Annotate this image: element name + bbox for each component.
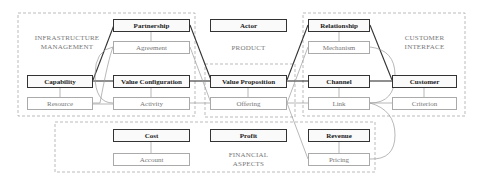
node-revenue: Revenue bbox=[308, 129, 370, 142]
node-pricing: Pricing bbox=[308, 153, 370, 166]
node-partnership: Partnership bbox=[113, 19, 190, 32]
financial-label-line2: ASPECTS bbox=[210, 160, 287, 169]
customer-label-line2: INTERFACE bbox=[392, 43, 457, 52]
financial-aspects-label: FINANCIAL ASPECTS bbox=[210, 151, 287, 169]
node-mechanism: Mechanism bbox=[308, 41, 370, 54]
node-value-proposition: Value Proposition bbox=[210, 75, 287, 88]
node-channel: Channel bbox=[308, 75, 370, 88]
node-customer: Customer bbox=[392, 75, 457, 88]
customer-interface-label: CUSTOMER INTERFACE bbox=[392, 34, 457, 52]
edge-resource-agreement bbox=[93, 47, 113, 103]
node-cost: Cost bbox=[113, 129, 190, 142]
node-relationship: Relationship bbox=[308, 19, 370, 32]
node-actor: Actor bbox=[210, 19, 287, 32]
node-capability: Capability bbox=[27, 75, 93, 88]
node-value-configuration: Value Configuration bbox=[113, 75, 190, 88]
edge-agreement-offering bbox=[190, 47, 211, 103]
edge-mechanism-offering bbox=[287, 47, 308, 103]
edge-valueprop-relationship bbox=[287, 25, 308, 80]
node-criterion: Criterion bbox=[392, 97, 457, 110]
customer-label-line1: CUSTOMER bbox=[392, 34, 457, 43]
edge-relationship-customer bbox=[370, 25, 392, 80]
node-offering: Offering bbox=[210, 97, 287, 110]
node-account: Account bbox=[113, 153, 190, 166]
node-agreement: Agreement bbox=[113, 41, 190, 54]
node-activity: Activity bbox=[113, 97, 190, 110]
product-label: PRODUCT bbox=[210, 44, 287, 53]
edge-link-pricing-curve bbox=[370, 103, 395, 159]
node-profit: Profit bbox=[210, 129, 287, 142]
edge-pricing-offering bbox=[287, 103, 308, 159]
node-resource: Resource bbox=[27, 97, 93, 110]
financial-label-line1: FINANCIAL bbox=[210, 151, 287, 160]
node-link: Link bbox=[308, 97, 370, 110]
infrastructure-label-line2: MANAGEMENT bbox=[22, 43, 112, 52]
infrastructure-management-label: INFRASTRUCTURE MANAGEMENT bbox=[22, 34, 112, 52]
infrastructure-label-line1: INFRASTRUCTURE bbox=[22, 34, 112, 43]
edge-partnership-valueprop bbox=[190, 25, 211, 80]
